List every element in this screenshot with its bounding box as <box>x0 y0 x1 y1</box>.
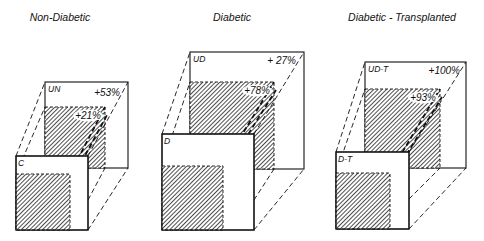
connector-outer-top-left <box>336 62 365 152</box>
connector-outer-bottom-right <box>409 168 466 229</box>
connector-outer-top-left <box>162 52 190 134</box>
front-hatched-area-diabetic-transplanted <box>336 173 390 229</box>
panel-title-diabetic-transplanted: Diabetic - Transplanted <box>348 11 457 23</box>
connector-outer-bottom-right <box>88 168 128 230</box>
connector-outer-bottom-right <box>254 169 304 230</box>
front-label-c: C <box>18 158 25 168</box>
front-hatched-area-diabetic <box>162 166 223 230</box>
outer-change-non-diabetic: +53% <box>94 87 120 98</box>
inner-change-diabetic-transplanted: +93% <box>410 92 436 103</box>
connector-outer-top-left <box>16 82 45 156</box>
panel-diabetic <box>162 52 304 230</box>
connector-inner-bottom-right <box>409 168 440 199</box>
front-hatched-area-non-diabetic <box>16 174 70 230</box>
back-label-ud-t: UD-T <box>368 64 389 74</box>
connector-inner-bottom-right <box>254 169 274 200</box>
panel-non-diabetic <box>16 82 128 230</box>
inner-change-non-diabetic: +21% <box>75 110 101 121</box>
panel-diabetic-transplanted <box>336 62 466 229</box>
inner-change-diabetic: +78% <box>244 85 270 96</box>
back-label-un: UN <box>48 84 61 94</box>
panel-title-diabetic: Diabetic <box>213 11 252 23</box>
cube-comparison-diagram: Non-Diabetic Diabetic Diabetic - Transpl… <box>0 0 484 241</box>
front-label-d: D <box>164 136 170 146</box>
outer-change-diabetic: + 27% <box>267 55 296 66</box>
front-label-d-t: D-T <box>338 154 353 164</box>
panel-title-non-diabetic: Non-Diabetic <box>30 11 91 23</box>
back-label-ud: UD <box>193 54 205 64</box>
connector-inner-bottom-right <box>88 168 105 200</box>
outer-change-diabetic-transplanted: +100% <box>429 65 461 76</box>
